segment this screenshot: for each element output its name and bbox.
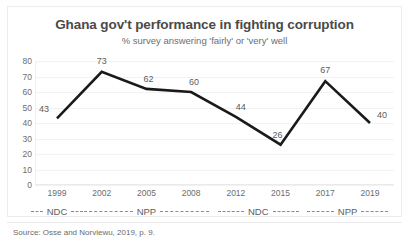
party-label: NPP: [136, 206, 158, 217]
y-axis-tick-label: 80: [6, 57, 32, 66]
chart-subtitle: % survey answering 'fairly' or 'very' we…: [0, 35, 409, 46]
data-point-label: 67: [320, 66, 330, 75]
y-axis-tick-label: 50: [6, 104, 32, 113]
x-axis-tick-label: 2012: [226, 189, 245, 198]
y-axis-tick-label: 10: [6, 166, 32, 175]
bracket-dash-right: [160, 211, 209, 212]
series-polyline: [57, 72, 370, 145]
data-point-label: 26: [273, 131, 283, 140]
bracket-dash-left: [307, 211, 334, 212]
line-series: [36, 61, 394, 185]
party-label: NDC: [247, 206, 270, 217]
y-axis-tick-label: 30: [6, 135, 32, 144]
data-point-label: 40: [377, 111, 387, 120]
x-axis-tick-labels: 19992002200520082012201520172019: [36, 189, 394, 201]
chart-title: Ghana gov't performance in fighting corr…: [0, 17, 409, 32]
x-axis-tick-label: 2002: [92, 189, 111, 198]
source-divider: [7, 222, 402, 223]
data-point-label: 62: [143, 75, 153, 84]
party-label: NDC: [46, 206, 69, 217]
x-axis-tick-label: 2015: [271, 189, 290, 198]
data-point-label: 60: [189, 78, 199, 87]
y-axis-tick-label: 0: [6, 181, 32, 190]
x-axis-tick-label: 2005: [137, 189, 156, 198]
bracket-dash-left: [218, 211, 244, 212]
data-point-label: 43: [39, 105, 49, 114]
data-point-label: 73: [97, 57, 107, 66]
party-label: NPP: [337, 206, 359, 217]
party-period-npp-1: NPP: [84, 205, 209, 218]
chart-figure: Ghana gov't performance in fighting corr…: [0, 0, 409, 245]
x-axis-tick-label: 2008: [182, 189, 201, 198]
party-period-ndc-0: NDC: [31, 205, 83, 218]
plot-area: 4373626044266740: [36, 61, 394, 185]
party-period-row: NDCNPPNDCNPP: [0, 205, 409, 219]
y-axis-tick-label: 60: [6, 88, 32, 97]
source-note: Source: Osse and Norviewu, 2019, p. 9.: [13, 228, 155, 237]
bracket-dash-left: [31, 211, 43, 212]
data-point-label: 44: [236, 103, 246, 112]
gridline: [36, 185, 394, 186]
y-axis-tick-label: 70: [6, 73, 32, 82]
y-axis-tick-labels: 80706050403020100: [4, 61, 32, 185]
x-axis-tick-label: 2019: [361, 189, 380, 198]
bracket-dash-right: [71, 211, 83, 212]
bracket-dash-right: [361, 211, 388, 212]
party-period-npp-3: NPP: [307, 205, 388, 218]
bracket-dash-left: [84, 211, 133, 212]
y-axis-tick-label: 20: [6, 150, 32, 159]
party-period-ndc-2: NDC: [218, 205, 299, 218]
y-axis-tick-label: 40: [6, 119, 32, 128]
x-axis-tick-label: 2017: [316, 189, 335, 198]
bracket-dash-right: [273, 211, 299, 212]
x-axis-tick-label: 1999: [48, 189, 67, 198]
